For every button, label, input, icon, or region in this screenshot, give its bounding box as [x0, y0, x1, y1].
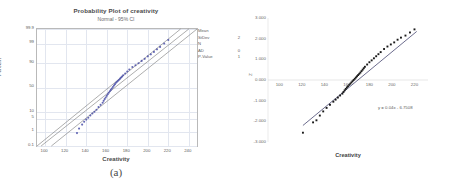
figure-a-data-point: [122, 74, 124, 76]
figure-a-x-tick: 200: [138, 148, 156, 153]
figure-b-data-point: [373, 57, 375, 59]
figure-b-data-point: [329, 104, 331, 106]
figure-b-plot-area: [268, 18, 428, 142]
figure-a-data-point: [85, 119, 87, 121]
figure-a-data-point: [103, 100, 105, 102]
figure-b-y-tick: 0.000: [236, 78, 266, 82]
figure-b-data-point: [332, 101, 334, 103]
figure-a-data-point: [87, 117, 89, 119]
figure-a-data-point: [134, 64, 136, 66]
figure-b-data-point: [319, 115, 321, 117]
figure-a-data-point: [128, 68, 130, 70]
figure-a-data-point: [131, 66, 133, 68]
figure-b-data-point: [341, 93, 343, 95]
figure-a-data-point: [147, 55, 149, 57]
figure-a-data-point: [81, 124, 83, 126]
figure-a-y-tick: 0.1: [4, 143, 34, 147]
figure-b-data-point: [380, 51, 382, 53]
figure-a-caption: (a): [0, 166, 232, 178]
figure-a-data-point: [163, 42, 165, 44]
figure-a-x-tick: 180: [117, 148, 135, 153]
figure-a-title: Probability Plot of creativity: [0, 7, 232, 14]
figure-b-data-point: [393, 41, 395, 43]
figure-a-x-tick: 140: [76, 148, 94, 153]
figure-a-y-tick: 99.9: [4, 26, 34, 30]
figure-a-data-point: [141, 60, 143, 62]
figure-b-data-point: [386, 46, 388, 48]
figure-a-y-tick: 10: [4, 109, 34, 113]
figure-a-x-tick: 120: [56, 148, 74, 153]
figure-b-x-tick: 180: [361, 82, 377, 87]
figure-a-data-point: [153, 51, 155, 53]
figure-a-data-point: [97, 106, 99, 108]
figure-b-data-point: [364, 66, 366, 68]
figure-b-data-point: [397, 39, 399, 41]
figure-a-data-point: [144, 58, 146, 60]
figure-a-y-tick: 50: [4, 84, 34, 88]
figure-b-data-point: [366, 64, 368, 66]
figure-b-y-tick: -3.000: [236, 140, 266, 144]
figure-a-data-layer: [37, 29, 197, 146]
figure-a-confidence-band-line: [37, 29, 181, 146]
figure-b-data-point: [337, 97, 339, 99]
figure-b-y-axis-label: Z: [248, 73, 253, 76]
figure-b-data-point: [414, 28, 416, 30]
figure-a-data-point: [78, 128, 80, 130]
figure-a-data-point: [91, 112, 93, 114]
figure-a-x-tick: 220: [158, 148, 176, 153]
figure-a-y-tick: 1: [4, 128, 34, 132]
figure-a-fit-line: [41, 29, 189, 146]
figure-a-y-axis-label: Percent: [0, 58, 2, 76]
figure-a-data-point: [76, 132, 78, 134]
figure-a-stat-key: P-Value: [198, 54, 213, 61]
figure-b-data-point: [316, 119, 318, 121]
figure-b-data-point: [405, 35, 407, 37]
figure-a-data-point: [156, 48, 158, 50]
figure-b-x-tick: 200: [384, 82, 400, 87]
figure-b-x-axis-label: Creativity: [268, 152, 428, 158]
figure-a-y-tick: 90: [4, 60, 34, 64]
figure-a-data-point: [102, 102, 104, 104]
figure-a-data-point: [137, 62, 139, 64]
figure-b-y-tick: 3.000: [236, 16, 266, 20]
figure-b-data-point: [343, 91, 345, 93]
figure-b-data-point: [371, 59, 373, 61]
figure-a-data-point: [124, 72, 126, 74]
figure-b-data-point: [322, 110, 324, 112]
figure-b-data-layer: [268, 18, 428, 142]
figure-a-data-point: [150, 53, 152, 55]
figure-a-confidence-band-line: [51, 29, 197, 146]
figure-a-data-point: [167, 39, 169, 41]
figure-b-x-tick: 220: [407, 82, 423, 87]
figure-b-data-point: [377, 53, 379, 55]
figure-b-x-tick: 140: [316, 82, 332, 87]
figure-a-data-point: [89, 114, 91, 116]
figure-b-qq-plot: Z 3.0002.0001.0000.000-1.000-2.000-3.000…: [232, 0, 453, 192]
figure-b-data-point: [326, 107, 328, 109]
figure-a-subtitle: Normal - 95% CI: [0, 16, 232, 22]
figure-a-plot-area: [36, 28, 198, 147]
figure-b-x-tick: 120: [294, 82, 310, 87]
figure-b-x-tick: 160: [339, 82, 355, 87]
figure-b-data-point: [390, 44, 392, 46]
figure-a-y-tick: 99: [4, 40, 34, 44]
figure-a-data-point: [100, 104, 102, 106]
figure-b-y-tick: 1.000: [236, 57, 266, 61]
figure-a-x-tick: 240: [179, 148, 197, 153]
figure-b-trend-line: [303, 31, 417, 125]
figure-a-data-point: [83, 121, 85, 123]
figure-a-data-point: [95, 109, 97, 111]
figure-a-probability-plot: Probability Plot of creativity Normal - …: [0, 0, 232, 192]
figure-b-data-point: [383, 48, 385, 50]
figure-a-y-tick: 5: [4, 115, 34, 119]
figure-b-data-point: [400, 37, 402, 39]
figure-a-data-point: [93, 111, 95, 113]
figure-b-y-tick: -1.000: [236, 99, 266, 103]
figure-a-x-tick: 100: [35, 148, 53, 153]
figure-b-y-tick: -2.000: [236, 119, 266, 123]
figure-a-x-axis-label: Creativity: [36, 156, 196, 162]
figure-a-data-point: [159, 46, 161, 48]
figure-b-data-point: [339, 95, 341, 97]
figure-a-data-point: [126, 71, 128, 73]
figure-b-data-point: [368, 61, 370, 63]
